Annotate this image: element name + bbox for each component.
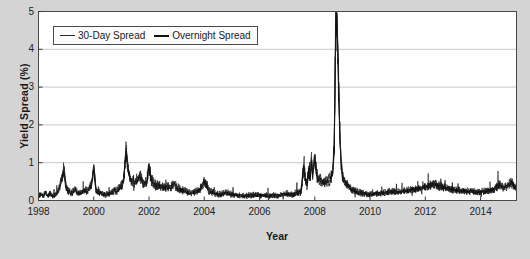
legend-entry: Overnight Spread: [154, 30, 250, 41]
x-axis-title: Year: [38, 230, 516, 242]
legend-entry: 30-Day Spread: [60, 30, 145, 41]
x-tick-label: 2000: [83, 206, 105, 217]
x-tick-label: 2002: [138, 206, 160, 217]
x-tick-label: 2014: [469, 206, 491, 217]
legend-swatch-line-icon: [60, 35, 75, 36]
x-tick-label: 2012: [414, 206, 436, 217]
x-tick-label: 2010: [359, 206, 381, 217]
x-tick-label: 2004: [193, 206, 215, 217]
legend-swatch-line-icon: [154, 35, 169, 37]
chart-figure: Yield Spread (%) 012345 30-Day SpreadOve…: [0, 0, 530, 259]
x-tick-label: 2008: [304, 206, 326, 217]
chart-legend: 30-Day SpreadOvernight Spread: [53, 26, 258, 45]
x-tick-label: 1998: [27, 206, 49, 217]
x-tick-label: 2006: [248, 206, 270, 217]
legend-label: 30-Day Spread: [78, 30, 145, 41]
legend-label: Overnight Spread: [172, 30, 250, 41]
